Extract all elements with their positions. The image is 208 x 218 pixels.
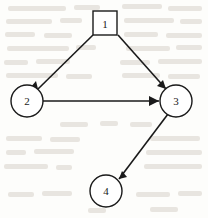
edge-3-4 (119, 114, 168, 179)
node-label: 4 (103, 185, 109, 197)
edge-1-3 (118, 35, 166, 89)
arrowhead-icon (149, 96, 159, 106)
graph-node-2[interactable]: 2 (11, 85, 43, 117)
graph-node-4[interactable]: 4 (90, 175, 122, 207)
edge-shaft (118, 35, 166, 89)
arrowhead-icon (119, 171, 127, 179)
node-label: 3 (173, 95, 179, 107)
edge-2-3 (43, 96, 159, 106)
edge-shaft (38, 35, 93, 89)
node-group: 1234 (11, 11, 192, 207)
graph-figure: 1234 (0, 0, 208, 218)
edge-group (30, 35, 168, 179)
edge-shaft (119, 114, 168, 179)
edge-1-2 (30, 35, 93, 89)
graph-canvas: 1234 (0, 0, 208, 218)
graph-node-1[interactable]: 1 (93, 11, 117, 35)
node-label: 2 (24, 95, 30, 107)
node-label: 1 (102, 18, 108, 30)
graph-node-3[interactable]: 3 (160, 85, 192, 117)
